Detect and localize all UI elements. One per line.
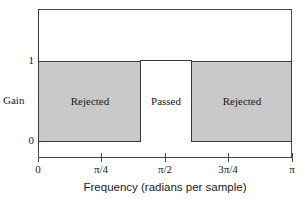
x-axis-label: Frequency (radians per sample): [38, 181, 292, 193]
region-label-passed: Passed: [140, 95, 192, 108]
y-axis-line: [38, 9, 39, 158]
x-tick-label-3pi-4: 3π/4: [207, 163, 249, 176]
bandpass-filter-figure: 0 π/4 π/2 3π/4 π 1 0 Gain Frequency (rad…: [0, 0, 304, 207]
passband-top-edge: [140, 60, 192, 61]
x-tick-pi-4: [101, 153, 102, 162]
x-tick-pi-2: [165, 153, 166, 162]
x-tick-pi: [292, 153, 293, 162]
y-tick-label-1: 1: [16, 54, 34, 66]
x-tick-label-0: 0: [28, 163, 48, 176]
x-tick-3pi-4: [228, 153, 229, 162]
x-tick-label-pi-4: π/4: [85, 163, 117, 176]
x-tick-0: [38, 153, 39, 162]
x-tick-label-pi: π: [282, 163, 302, 176]
region-label-rejected-low: Rejected: [45, 95, 135, 108]
region-label-rejected-high: Rejected: [196, 95, 288, 108]
x-tick-label-pi-2: π/2: [149, 163, 181, 176]
y-axis-label: Gain: [3, 94, 24, 106]
y-tick-label-0: 0: [16, 134, 34, 146]
